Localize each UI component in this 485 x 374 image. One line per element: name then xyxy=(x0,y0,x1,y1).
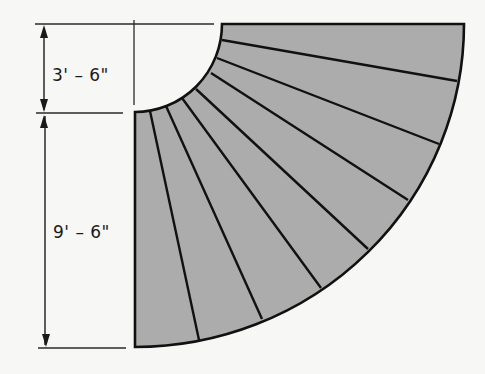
stair-plan-drawing: 3' – 6" 9' – 6" xyxy=(0,0,485,374)
lower-dim-arrow-bottom-icon xyxy=(42,334,50,347)
upper-dim-arrow-bottom-icon xyxy=(40,99,48,112)
outer-width-dimension-label: 9' – 6" xyxy=(53,222,110,242)
inner-radius-dimension-label: 3' – 6" xyxy=(52,65,109,85)
lower-dim-arrow-top-icon xyxy=(40,115,48,128)
upper-dim-arrow-top-icon xyxy=(40,25,48,38)
